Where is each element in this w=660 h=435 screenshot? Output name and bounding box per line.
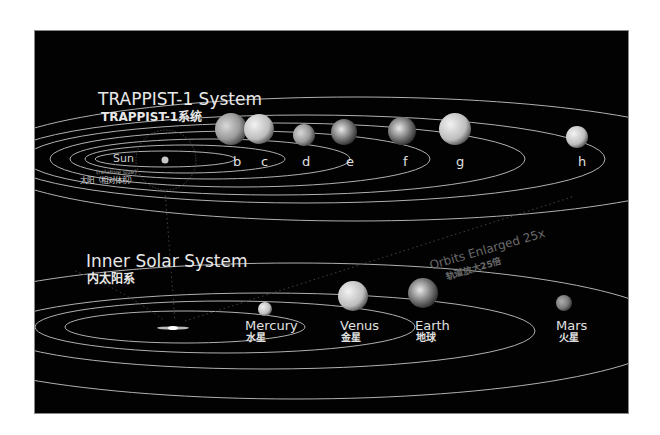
trappist-title: TRAPPIST-1 System <box>98 91 262 108</box>
planet-label-venus: Venus <box>340 319 379 332</box>
planet-label-mercury-zh: 水星 <box>246 333 266 343</box>
planet-label-f: f <box>403 155 408 168</box>
planet-label-b: b <box>233 155 241 168</box>
planet-label-h: h <box>578 155 586 168</box>
planet-label-earth-zh: 地球 <box>416 333 436 343</box>
planet-label-venus-zh: 金星 <box>341 333 361 343</box>
diagram-panel: TRAPPIST-1 System TRAPPIST-1系统 Sun (rela… <box>34 30 629 414</box>
planet-label-earth: Earth <box>415 319 450 332</box>
planet-label-d: d <box>302 155 310 168</box>
sun-label: Sun <box>113 153 134 164</box>
planet-label-mercury: Mercury <box>245 319 298 332</box>
sun-label-zh: 太阳（相对体积） <box>80 177 136 185</box>
sun-note: (relative size) <box>96 169 137 175</box>
inner-planets <box>258 278 572 316</box>
inner-title-zh: 内太阳系 <box>87 273 135 285</box>
planet-label-e: e <box>346 155 354 168</box>
planet-label-mars: Mars <box>556 319 587 332</box>
planet-label-g: g <box>456 155 464 168</box>
trappist-title-zh: TRAPPIST-1系统 <box>101 111 202 123</box>
inner-title: Inner Solar System <box>86 253 248 270</box>
planet-label-mars-zh: 火星 <box>559 333 579 343</box>
planet-label-c: c <box>261 155 268 168</box>
